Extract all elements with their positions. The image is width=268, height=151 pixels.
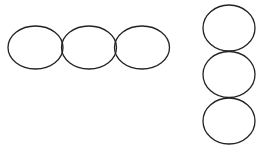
- horizontal-ellipse-row: [8, 26, 170, 69]
- vertical-ellipse-1: [203, 5, 255, 51]
- vertical-ellipse-2: [203, 52, 255, 98]
- vertical-ellipse-3: [203, 98, 255, 144]
- horizontal-ellipse-3: [115, 26, 170, 69]
- vertical-ellipse-column: [203, 5, 255, 144]
- horizontal-ellipse-2: [62, 26, 117, 69]
- horizontal-ellipse-1: [8, 26, 63, 69]
- diagram-canvas: [0, 0, 268, 151]
